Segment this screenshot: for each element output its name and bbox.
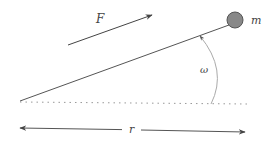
angular-velocity-label: ω <box>200 64 208 75</box>
mass-ball <box>227 12 243 28</box>
mass-label: m <box>251 14 261 27</box>
force-label: F <box>95 12 105 26</box>
radius-arrow-left <box>20 128 122 130</box>
rod-line <box>20 25 229 101</box>
radius-arrow-right <box>141 130 245 132</box>
baseline-dotted-line <box>20 102 247 104</box>
diagram-canvas: F m ω r <box>0 0 274 143</box>
force-arrow <box>68 15 152 45</box>
radius-label: r <box>129 123 135 136</box>
